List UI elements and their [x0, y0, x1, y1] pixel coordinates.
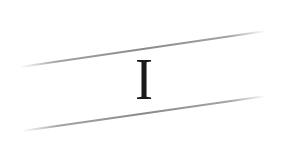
captcha-character: I [133, 49, 155, 109]
captcha-image: I [0, 0, 287, 142]
